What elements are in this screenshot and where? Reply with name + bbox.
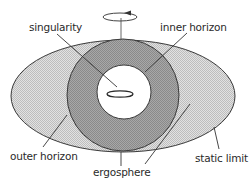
rotation-arrowhead-icon — [124, 11, 131, 16]
rotation-arrow-icon — [103, 13, 137, 21]
static-limit-leader — [214, 127, 219, 149]
kerr-black-hole-diagram: singularity inner horizon outer horizon … — [0, 0, 251, 190]
inner-horizon-circle — [97, 65, 151, 119]
label-singularity: singularity — [29, 21, 82, 33]
label-static-limit: static limit — [195, 152, 248, 164]
label-ergosphere: ergosphere — [93, 166, 150, 178]
label-outer-horizon: outer horizon — [10, 150, 78, 162]
label-inner-horizon: inner horizon — [160, 21, 227, 33]
